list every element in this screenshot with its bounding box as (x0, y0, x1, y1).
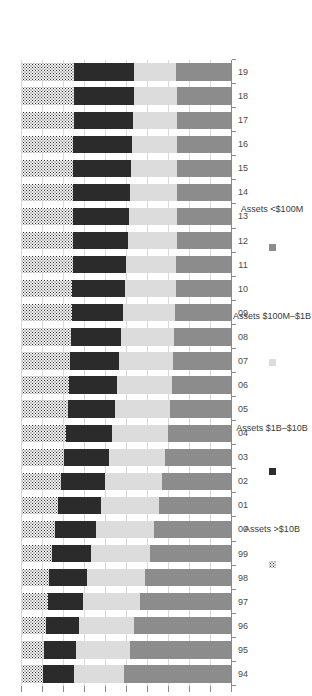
bar-segment (131, 160, 177, 177)
legend-item[interactable]: Assets $100M–$1B (267, 277, 277, 366)
stacked-bar[interactable] (22, 617, 232, 634)
bar-segment (49, 569, 87, 586)
bar-segment (69, 376, 117, 393)
bar-segment (150, 545, 232, 562)
stacked-bar[interactable] (22, 184, 232, 201)
bar-segment (177, 87, 232, 104)
bar-segment (134, 617, 232, 634)
bar-segment (22, 136, 73, 153)
value-tick-mark (63, 686, 64, 692)
stacked-bar[interactable] (22, 87, 232, 104)
stacked-bar[interactable] (22, 63, 232, 80)
bar-segment (162, 473, 232, 490)
category-tick-mark (232, 613, 236, 614)
bar-segment (22, 184, 73, 201)
stacked-bar[interactable] (22, 521, 232, 538)
stacked-bar[interactable] (22, 256, 232, 273)
bar-segment (177, 136, 232, 153)
bar-segment (79, 617, 134, 634)
stacked-bar[interactable] (22, 136, 232, 153)
category-tick-mark (232, 589, 236, 590)
bar-segment (96, 521, 154, 538)
bar-slot (22, 349, 232, 373)
stacked-bar[interactable] (22, 208, 232, 225)
value-tick-mark (126, 686, 127, 692)
category-tick-label: 98 (238, 573, 248, 583)
category-tick-label: 97 (238, 597, 248, 607)
legend-item[interactable]: Assets >$10B (267, 501, 277, 568)
stacked-bar[interactable] (22, 593, 232, 610)
bar-segment (159, 497, 233, 514)
bar-segment (176, 280, 232, 297)
category-tick-mark (232, 468, 236, 469)
bar-segment (71, 328, 121, 345)
stacked-bar[interactable] (22, 352, 232, 369)
stacked-bar[interactable] (22, 112, 232, 129)
stacked-bar[interactable] (22, 473, 232, 490)
bar-segment (140, 593, 232, 610)
bar-slot (22, 84, 232, 108)
bar-segment (22, 232, 73, 249)
bar-segment (115, 400, 170, 417)
category-tick-label: 10 (238, 284, 248, 294)
stacked-bar[interactable] (22, 449, 232, 466)
category-tick-mark (232, 661, 236, 662)
stacked-bar[interactable] (22, 376, 232, 393)
category-tick-mark (232, 685, 236, 686)
bar-slot (22, 132, 232, 156)
bar-segment (109, 449, 165, 466)
category-tick-label: 99 (238, 549, 248, 559)
category-tick-mark (232, 276, 236, 277)
bar-segment (125, 280, 176, 297)
stacked-bar[interactable] (22, 665, 232, 682)
bar-segment (73, 256, 127, 273)
bar-slot (22, 108, 232, 132)
category-tick-mark (232, 541, 236, 542)
category-tick-mark (232, 492, 236, 493)
bar-segment (46, 617, 80, 634)
bar-segment (22, 400, 68, 417)
value-tick-mark (168, 686, 169, 692)
category-tick-mark (232, 252, 236, 253)
bar-segment (22, 256, 73, 273)
bar-slot (22, 301, 232, 325)
bar-segment (126, 256, 176, 273)
bar-segment (105, 473, 162, 490)
rotated-chart-canvas: 100.0%90.0%80.0%70.0%60.0%50.0%40.0%30.0… (0, 0, 285, 696)
bar-segment (72, 304, 123, 321)
bar-slot (22, 493, 232, 517)
stacked-bar[interactable] (22, 400, 232, 417)
stacked-bar[interactable] (22, 641, 232, 658)
bar-segment (172, 376, 232, 393)
stacked-bar[interactable] (22, 304, 232, 321)
bar-segment (22, 521, 55, 538)
category-tick-label: 17 (238, 115, 248, 125)
bar-segment (22, 569, 49, 586)
bar-segment (22, 352, 70, 369)
bar-slot (22, 614, 232, 638)
bar-segment (177, 208, 232, 225)
category-tick-mark (232, 516, 236, 517)
bar-segment (174, 328, 232, 345)
bar-slot (22, 373, 232, 397)
stacked-bar[interactable] (22, 328, 232, 345)
category-tick-mark (232, 637, 236, 638)
bar-slot (22, 662, 232, 686)
stacked-bar[interactable] (22, 569, 232, 586)
stacked-bar[interactable] (22, 232, 232, 249)
stacked-bar[interactable] (22, 545, 232, 562)
value-tick-mark (105, 686, 106, 692)
legend-item[interactable]: Assets $1B–$10B (267, 393, 277, 476)
stacked-bar[interactable] (22, 425, 232, 442)
bar-segment (117, 376, 172, 393)
bar-slot (22, 421, 232, 445)
stacked-bar[interactable] (22, 497, 232, 514)
bar-segment (170, 400, 232, 417)
bar-slot (22, 229, 232, 253)
bar-segment (22, 473, 61, 490)
legend-label: Assets $100M–$1B (267, 277, 277, 355)
stacked-bar[interactable] (22, 280, 232, 297)
bar-segment (58, 497, 100, 514)
legend-item[interactable]: Assets <$100M (267, 178, 277, 251)
stacked-bar[interactable] (22, 160, 232, 177)
